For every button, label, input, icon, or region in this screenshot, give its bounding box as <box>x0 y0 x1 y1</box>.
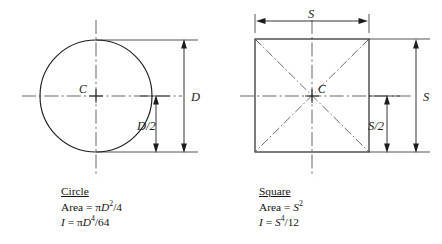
circle-area-divisor: /4 <box>113 201 122 213</box>
square-half-height-label: S/2 <box>368 119 384 133</box>
square-inertia-divisor: /12 <box>285 216 300 228</box>
circle-diameter-arrow-up <box>181 39 187 49</box>
square-half-height-arrow-up <box>384 95 390 105</box>
circle-figure-group: C D D/2 <box>22 20 200 177</box>
circle-inertia-variable: D <box>83 216 91 228</box>
circle-centroid-mark <box>89 89 103 103</box>
square-caption-title: Square <box>259 184 303 199</box>
square-area-exponent: 2 <box>299 199 303 208</box>
section-properties-figure: C D D/2 <box>0 0 442 244</box>
square-caption-block: Square Area = S2 I = S4/12 <box>259 184 303 230</box>
square-height-arrow-down <box>413 144 419 154</box>
square-inertia-prefix: = <box>263 216 275 228</box>
square-height-label: S <box>423 90 430 104</box>
circle-caption-block: Circle Area = πD2/4 I = πD4/64 <box>61 184 122 230</box>
square-half-height-dimension: S/2 <box>368 95 390 153</box>
square-area-prefix: Area = <box>259 201 293 213</box>
circle-inertia-prefix: = <box>65 216 77 228</box>
circle-area-formula: Area = πD2/4 <box>61 200 122 215</box>
square-height-arrow-up <box>413 39 419 49</box>
circle-half-diameter-arrow-up <box>153 95 159 105</box>
circle-inertia-divisor: /64 <box>95 216 110 228</box>
square-centroid-label: C <box>318 83 326 95</box>
square-width-arrow-left <box>256 18 266 24</box>
square-figure-group: C S S <box>240 7 430 177</box>
circle-half-diameter-label: D/2 <box>136 119 156 133</box>
circle-half-diameter-arrow-down <box>153 144 159 154</box>
square-height-dimension: S <box>413 39 430 153</box>
circle-inertia-formula: I = πD4/64 <box>61 215 122 230</box>
circle-half-diameter-dimension: D/2 <box>136 95 159 153</box>
square-inertia-formula: I = S4/12 <box>259 215 303 230</box>
square-area-formula: Area = S2 <box>259 200 303 215</box>
circle-area-variable: D <box>101 201 109 213</box>
square-width-dimension: S <box>256 7 368 24</box>
circle-diameter-label: D <box>190 90 200 104</box>
square-width-label: S <box>308 7 315 21</box>
circle-caption-title: Circle <box>61 184 122 199</box>
circle-diameter-arrow-down <box>181 144 187 154</box>
circle-diameter-dimension: D <box>181 39 200 153</box>
square-width-arrow-right <box>359 18 369 24</box>
circle-area-prefix: Area = <box>61 201 95 213</box>
circle-centroid-label: C <box>79 83 87 95</box>
square-half-height-arrow-down <box>384 144 390 154</box>
